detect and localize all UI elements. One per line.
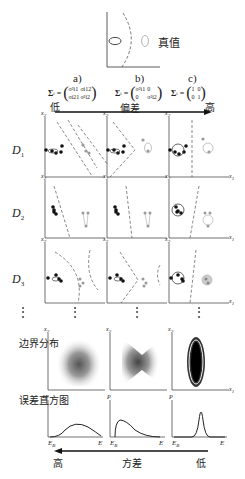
axis-label-x1: x1: [229, 298, 234, 306]
matrix-cell: 0: [147, 85, 157, 93]
matrix-cell: σ²i1: [135, 85, 145, 93]
axis-sub: 2: [171, 329, 174, 334]
axis-sub: 2: [44, 176, 47, 181]
error-histogram-label: 误差直方图: [19, 395, 32, 407]
hist-y-label: P: [107, 394, 111, 400]
matrix-c: Σi = ( 1 0 0 1 ): [171, 84, 206, 102]
hist-y-label: P: [45, 394, 49, 400]
hist-x-start: EB: [48, 439, 55, 448]
row-label-sub: 1: [21, 151, 25, 159]
axis-label-x2: x2: [106, 326, 111, 334]
panel-d3-c: [169, 243, 229, 303]
ellipsis-icon: ⋮: [131, 305, 143, 320]
bias-low-label: 低: [50, 99, 60, 114]
row-label-d2: D2: [12, 206, 24, 222]
axis-sub: 2: [109, 329, 112, 334]
sigma-sub: i: [120, 91, 121, 96]
column-label-b: b): [135, 72, 144, 84]
matrix-cell: 1: [191, 85, 194, 93]
matrix-cell: σi12: [80, 85, 91, 93]
hist-x-start: EB: [110, 439, 117, 448]
legend-axes: [107, 12, 160, 67]
sigma-sub: i: [176, 91, 177, 96]
hist-x-end: E: [159, 439, 163, 447]
axis-label-x2: x2: [44, 326, 49, 334]
axis-sub: 2: [168, 176, 171, 181]
matrix-cell: σi21: [68, 93, 79, 101]
axis-sub: 2: [44, 113, 47, 118]
axis-label-x2: x2: [103, 173, 108, 181]
axis-label-x2: x2: [103, 236, 108, 244]
matrix-cell: 0: [191, 93, 194, 101]
ellipsis-icon: ⋮: [69, 305, 81, 320]
matrix-cell: σ²i2: [147, 93, 157, 101]
column-label-a: a): [73, 72, 82, 84]
ellipsis-icon: ⋮: [193, 305, 205, 320]
matrix-cell: σ²i1: [68, 85, 79, 93]
axis-label-x1: x1: [229, 173, 234, 181]
figure-canvas: [0, 0, 245, 479]
axis-label-x2: x2: [165, 173, 170, 181]
axis-sub: B: [52, 443, 55, 448]
axis-sub: 2: [106, 239, 109, 244]
axis-sub: 1: [232, 301, 235, 306]
axis-label-x1: x1: [229, 234, 234, 242]
row-label-text: D: [12, 143, 21, 157]
axis-label-x2: x2: [168, 326, 173, 334]
row-label-text: D: [12, 206, 21, 220]
row-label-d1: D1: [12, 143, 24, 159]
boundary-distribution-label: 边界分布: [19, 338, 32, 350]
panel-d1-c: [168, 117, 229, 177]
error-histogram-b: [110, 400, 165, 437]
hist-x-start: EB: [172, 439, 179, 448]
axis-sub: 2: [106, 176, 109, 181]
variance-label: 方差: [122, 455, 142, 470]
sigma-sub: i: [53, 91, 54, 96]
axis-label-x2: x2: [41, 110, 46, 118]
axis-sub: 2: [168, 239, 171, 244]
axis-label-x2: x2: [103, 110, 108, 118]
matrix-cell: σ²i2: [80, 93, 91, 101]
column-label-c: c): [188, 72, 197, 84]
variance-low-label: 低: [196, 455, 206, 470]
axis-sub: B: [176, 443, 179, 448]
panel-d1-b: [106, 117, 167, 177]
axis-label-x1: x1: [229, 386, 234, 394]
axis-sub: 1: [232, 389, 235, 394]
boundary-distribution-b: [110, 333, 167, 390]
axis-sub: 2: [44, 239, 47, 244]
legend-label: 真值: [158, 34, 180, 50]
boundary-distribution-c: [172, 333, 229, 390]
axis-sub: B: [114, 443, 117, 448]
variance-high-label: 高: [53, 455, 63, 470]
axis-label-x2: x2: [165, 110, 170, 118]
axis-label-x2: x2: [165, 236, 170, 244]
axis-sub: 1: [232, 237, 235, 242]
axis-label-x2: x2: [41, 236, 46, 244]
axis-sub: 2: [106, 113, 109, 118]
axis-sub: 1: [232, 176, 235, 181]
panel-d3-b: [107, 243, 167, 303]
panel-d2-b: [107, 180, 167, 238]
panel-d2-c: [169, 180, 229, 238]
variance-arrow: [54, 448, 208, 454]
ellipsis-icon: ⋮: [17, 305, 29, 320]
bias-label: 偏差: [120, 100, 140, 115]
error-histogram-c: [172, 400, 227, 437]
row-label-sub: 2: [21, 214, 25, 222]
axis-sub: 2: [47, 329, 50, 334]
panel-d1-a: [44, 117, 108, 177]
hist-x-end: E: [220, 439, 224, 447]
row-label-sub: 3: [21, 280, 25, 288]
panel-d3-a: [45, 243, 105, 303]
bias-high-label: 高: [205, 99, 215, 114]
row-label-d3: D3: [12, 272, 24, 288]
hist-x-end: E: [98, 439, 102, 447]
hist-y-label: P: [169, 394, 173, 400]
panel-d2-a: [45, 180, 105, 238]
axis-label-x2: x2: [41, 173, 46, 181]
row-label-text: D: [12, 272, 21, 286]
axis-sub: 2: [168, 113, 171, 118]
